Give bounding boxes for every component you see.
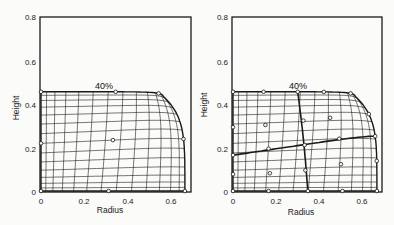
mesh-node bbox=[367, 112, 371, 116]
ytick-0.6: 0.6 bbox=[217, 58, 229, 67]
mesh-node bbox=[231, 153, 235, 157]
y-axis-title: Height bbox=[199, 92, 209, 117]
mesh-node bbox=[267, 147, 271, 151]
mesh-node bbox=[262, 90, 266, 94]
y-axis-labels: 0.8 0.6 0.4 0.2 0 bbox=[25, 13, 37, 197]
mesh-line bbox=[41, 100, 169, 103]
mesh-line bbox=[46, 92, 47, 191]
mesh-node bbox=[157, 92, 161, 96]
mesh-line bbox=[41, 92, 163, 96]
mesh-line bbox=[41, 148, 184, 153]
mesh-line bbox=[233, 92, 355, 96]
mesh-line bbox=[352, 94, 363, 191]
mesh-node bbox=[231, 172, 235, 176]
xtick-0: 0 bbox=[39, 197, 44, 206]
mesh-node bbox=[267, 189, 271, 193]
percent-annotation: 40% bbox=[289, 81, 307, 91]
ytick-0.4: 0.4 bbox=[25, 101, 37, 110]
x-axis-title: Radius bbox=[97, 205, 123, 215]
mesh-line bbox=[233, 100, 361, 103]
mesh-node bbox=[111, 138, 115, 142]
x-axis-labels: 0 0.2 0.4 0.6 bbox=[231, 197, 368, 206]
mesh-node bbox=[268, 171, 272, 175]
mesh-node bbox=[339, 162, 343, 166]
mesh-node bbox=[302, 119, 306, 123]
mesh-grid bbox=[233, 92, 377, 191]
ytick-0.6: 0.6 bbox=[25, 58, 37, 67]
mesh-node bbox=[231, 189, 235, 193]
right-mesh-panel: 0.8 0.6 0.4 0.2 0 0 0.2 0.4 0.6 Radius H… bbox=[199, 13, 382, 217]
mesh-node bbox=[304, 169, 308, 173]
y-axis-title: Height bbox=[11, 95, 21, 120]
mesh-line bbox=[41, 158, 185, 162]
mesh-line bbox=[41, 112, 177, 115]
mesh-line bbox=[238, 92, 239, 191]
mesh-line bbox=[116, 92, 123, 191]
ytick-0.2: 0.2 bbox=[25, 145, 37, 154]
y-axis-labels: 0.8 0.6 0.4 0.2 0 bbox=[217, 13, 229, 197]
mesh-node bbox=[341, 189, 345, 193]
x-axis-title: Radius bbox=[288, 207, 314, 217]
ytick-0.4: 0.4 bbox=[217, 101, 229, 110]
mesh-node bbox=[349, 92, 353, 96]
mesh-line bbox=[308, 92, 315, 191]
mesh-line bbox=[233, 175, 377, 177]
xtick-0.4: 0.4 bbox=[313, 197, 325, 206]
mesh-line bbox=[355, 96, 377, 191]
xtick-0: 0 bbox=[231, 197, 236, 206]
ytick-0.8: 0.8 bbox=[217, 13, 229, 22]
left-mesh-panel: 0.8 0.6 0.4 0.2 0 0 0.2 0.4 0.6 Radius H… bbox=[11, 13, 191, 215]
ytick-0: 0 bbox=[224, 188, 229, 197]
mesh-line bbox=[338, 92, 341, 191]
ytick-0: 0 bbox=[32, 188, 37, 197]
mesh-line bbox=[132, 92, 137, 191]
mesh-line bbox=[41, 175, 185, 177]
mesh-node bbox=[183, 189, 187, 193]
mesh-node bbox=[322, 90, 326, 94]
percent-annotation: 40% bbox=[95, 81, 113, 91]
xtick-0.4: 0.4 bbox=[122, 197, 134, 206]
mesh-line bbox=[163, 96, 185, 191]
mesh-node bbox=[107, 189, 111, 193]
mesh-node bbox=[328, 116, 332, 120]
mesh-node bbox=[306, 189, 310, 193]
xtick-0.2: 0.2 bbox=[270, 197, 282, 206]
mesh-node bbox=[39, 142, 43, 146]
mesh-nodes bbox=[39, 90, 186, 193]
xtick-0.6: 0.6 bbox=[356, 197, 368, 206]
mesh-line bbox=[41, 120, 180, 124]
xtick-0.6: 0.6 bbox=[165, 197, 177, 206]
mesh-node bbox=[114, 90, 118, 94]
mesh-node bbox=[337, 137, 341, 141]
mesh-node bbox=[373, 134, 377, 138]
plot-frame bbox=[232, 17, 382, 192]
mesh-node bbox=[303, 143, 307, 147]
mesh-node bbox=[375, 159, 379, 163]
xtick-0.2: 0.2 bbox=[78, 197, 90, 206]
mesh-node bbox=[182, 137, 186, 141]
mesh-line bbox=[41, 95, 166, 99]
mesh-node bbox=[39, 189, 43, 193]
ytick-0.8: 0.8 bbox=[25, 13, 37, 22]
mesh-line bbox=[41, 167, 185, 170]
mesh-node bbox=[231, 90, 235, 94]
mesh-nodes bbox=[231, 90, 378, 193]
mesh-line bbox=[160, 94, 171, 191]
mesh-line bbox=[348, 93, 354, 191]
mesh-node bbox=[39, 90, 43, 94]
mesh-line bbox=[233, 95, 358, 99]
mesh-node bbox=[231, 125, 235, 129]
plot-frame bbox=[40, 17, 191, 192]
mesh-node bbox=[375, 189, 379, 193]
mesh-line bbox=[156, 93, 162, 191]
ytick-0.2: 0.2 bbox=[217, 145, 229, 154]
mesh-figure: 0.8 0.6 0.4 0.2 0 0 0.2 0.4 0.6 Radius H… bbox=[0, 0, 394, 225]
mesh-line bbox=[146, 92, 149, 191]
mesh-node bbox=[264, 123, 268, 127]
